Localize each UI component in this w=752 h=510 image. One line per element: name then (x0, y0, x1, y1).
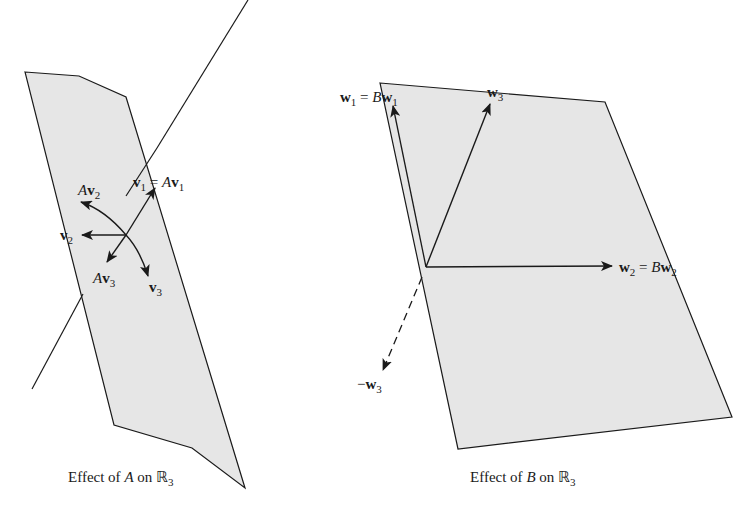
figure-canvas: v1 = Av1 Av2 v2 Av3 v3 w1 = Bw1 w3 (0, 0, 752, 510)
left-plane (25, 72, 245, 488)
eigen-line-upper (157, 0, 248, 148)
neg-w3-arrow (383, 277, 422, 370)
left-caption: Effect of A on ℝ3 (68, 468, 174, 488)
left-panel: v1 = Av1 Av2 v2 Av3 v3 (25, 0, 248, 488)
label-neg-w3: −w3 (357, 376, 382, 395)
eigen-line-lower (32, 294, 83, 389)
right-caption: Effect of B on ℝ3 (470, 468, 576, 488)
right-panel: w1 = Bw1 w3 w2 = Bw2 −w3 (340, 83, 732, 449)
